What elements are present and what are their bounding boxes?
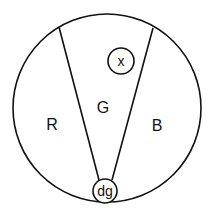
region-g-label: G — [97, 99, 109, 116]
node-x-label: x — [118, 53, 125, 69]
region-b-label: B — [152, 117, 163, 134]
region-r-label: R — [46, 116, 58, 133]
left-divider-line — [59, 27, 99, 180]
node-dg-label: dg — [97, 183, 113, 199]
region-diagram: x dg R G B — [0, 0, 209, 220]
